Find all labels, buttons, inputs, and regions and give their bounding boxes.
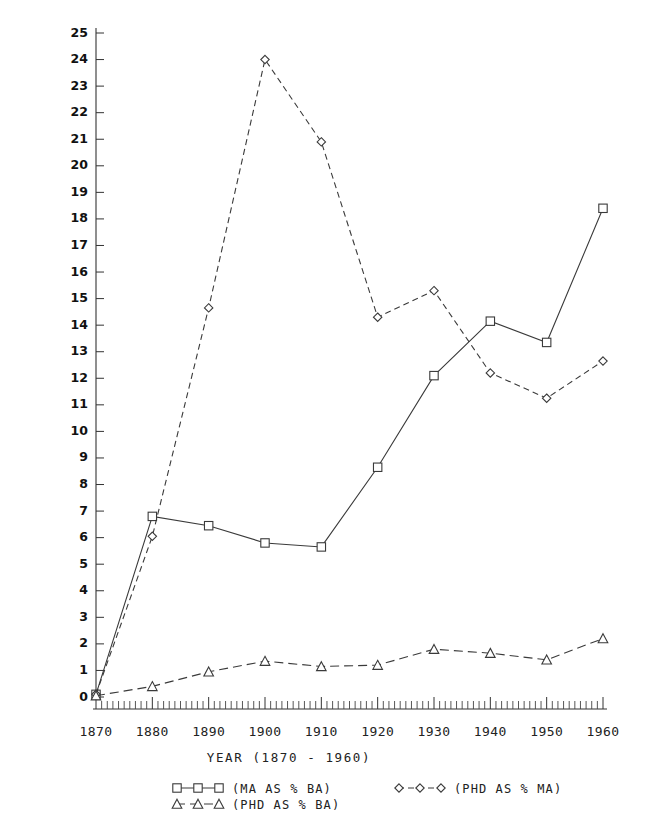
marker-triangle (598, 634, 608, 643)
y-tick-label: 2 (79, 635, 88, 650)
chart-legend: (MA AS % BA)(PHD AS % BA)(PHD AS % MA) (172, 782, 562, 812)
x-axis-title: YEAR (1870 - 1960) (207, 750, 371, 765)
marker-diamond (261, 55, 269, 63)
marker-square (215, 784, 223, 792)
legend-label: (PHD AS % MA) (454, 782, 562, 796)
series-line (96, 208, 603, 694)
y-tick-label: 23 (71, 78, 88, 93)
series-line (96, 60, 603, 695)
y-tick-label: 13 (71, 343, 88, 358)
y-tick-label: 3 (79, 609, 88, 624)
marker-square (542, 338, 550, 346)
y-tick-label: 20 (71, 157, 89, 172)
marker-square (173, 784, 181, 792)
y-tick-label: 4 (79, 582, 88, 597)
y-tick-label: 19 (71, 184, 88, 199)
marker-diamond (204, 304, 212, 312)
marker-diamond (430, 286, 438, 294)
y-tick-label: 1 (79, 662, 88, 677)
data-series (92, 204, 607, 698)
y-tick-label: 10 (71, 423, 89, 438)
y-tick-label: 24 (71, 51, 89, 66)
y-tick-label: 9 (79, 449, 88, 464)
marker-square (486, 317, 494, 325)
x-tick-label: 1930 (418, 724, 451, 739)
marker-diamond (599, 357, 607, 365)
marker-diamond (317, 138, 325, 146)
marker-diamond (416, 784, 424, 792)
chart-figure: 0123456789101112131415161718192021222324… (0, 0, 651, 818)
x-tick-label: 1900 (249, 724, 282, 739)
marker-square (373, 463, 381, 471)
data-series-group (91, 55, 608, 700)
marker-square (430, 371, 438, 379)
y-axis: 0123456789101112131415161718192021222324… (71, 25, 104, 704)
x-tick-label: 1940 (474, 724, 507, 739)
y-tick-label: 5 (79, 556, 88, 571)
marker-square (261, 539, 269, 547)
x-tick-label: 1910 (305, 724, 338, 739)
marker-square (317, 543, 325, 551)
marker-square (148, 512, 156, 520)
marker-diamond (486, 369, 494, 377)
y-tick-label: 12 (71, 370, 88, 385)
series-line (96, 639, 603, 696)
x-axis: 1870188018901900191019201930194019501960 (80, 697, 620, 739)
data-series (91, 634, 608, 700)
data-series (92, 55, 607, 698)
x-tick-label: 1870 (80, 724, 113, 739)
y-tick-label: 7 (79, 503, 88, 518)
marker-diamond (542, 394, 550, 402)
y-tick-label: 18 (71, 210, 88, 225)
marker-square (599, 204, 607, 212)
y-tick-label: 16 (71, 264, 89, 279)
y-tick-label: 14 (71, 317, 89, 332)
marker-diamond (373, 313, 381, 321)
line-chart: 0123456789101112131415161718192021222324… (0, 0, 651, 818)
y-tick-label: 21 (71, 131, 88, 146)
legend-item: (MA AS % BA) (173, 782, 332, 796)
marker-triangle (214, 799, 224, 808)
marker-triangle (429, 644, 439, 653)
marker-diamond (437, 784, 445, 792)
legend-label: (MA AS % BA) (232, 782, 332, 796)
y-tick-label: 0 (79, 689, 88, 704)
marker-triangle (148, 682, 158, 691)
y-tick-label: 6 (79, 529, 88, 544)
x-tick-label: 1950 (530, 724, 563, 739)
y-tick-label: 8 (79, 476, 88, 491)
marker-diamond (395, 784, 403, 792)
y-tick-label: 15 (71, 290, 88, 305)
y-tick-label: 11 (71, 396, 88, 411)
y-tick-label: 22 (71, 104, 88, 119)
marker-triangle (260, 656, 270, 665)
legend-item: (PHD AS % MA) (395, 782, 562, 796)
y-tick-label: 17 (71, 237, 88, 252)
x-tick-label: 1890 (192, 724, 225, 739)
marker-square (194, 784, 202, 792)
marker-diamond (148, 532, 156, 540)
x-tick-label: 1960 (587, 724, 620, 739)
x-tick-label: 1880 (136, 724, 169, 739)
y-tick-label: 25 (71, 25, 88, 40)
legend-item: (PHD AS % BA) (172, 798, 340, 812)
legend-label: (PHD AS % BA) (232, 798, 340, 812)
marker-square (204, 521, 212, 529)
x-tick-label: 1920 (361, 724, 394, 739)
